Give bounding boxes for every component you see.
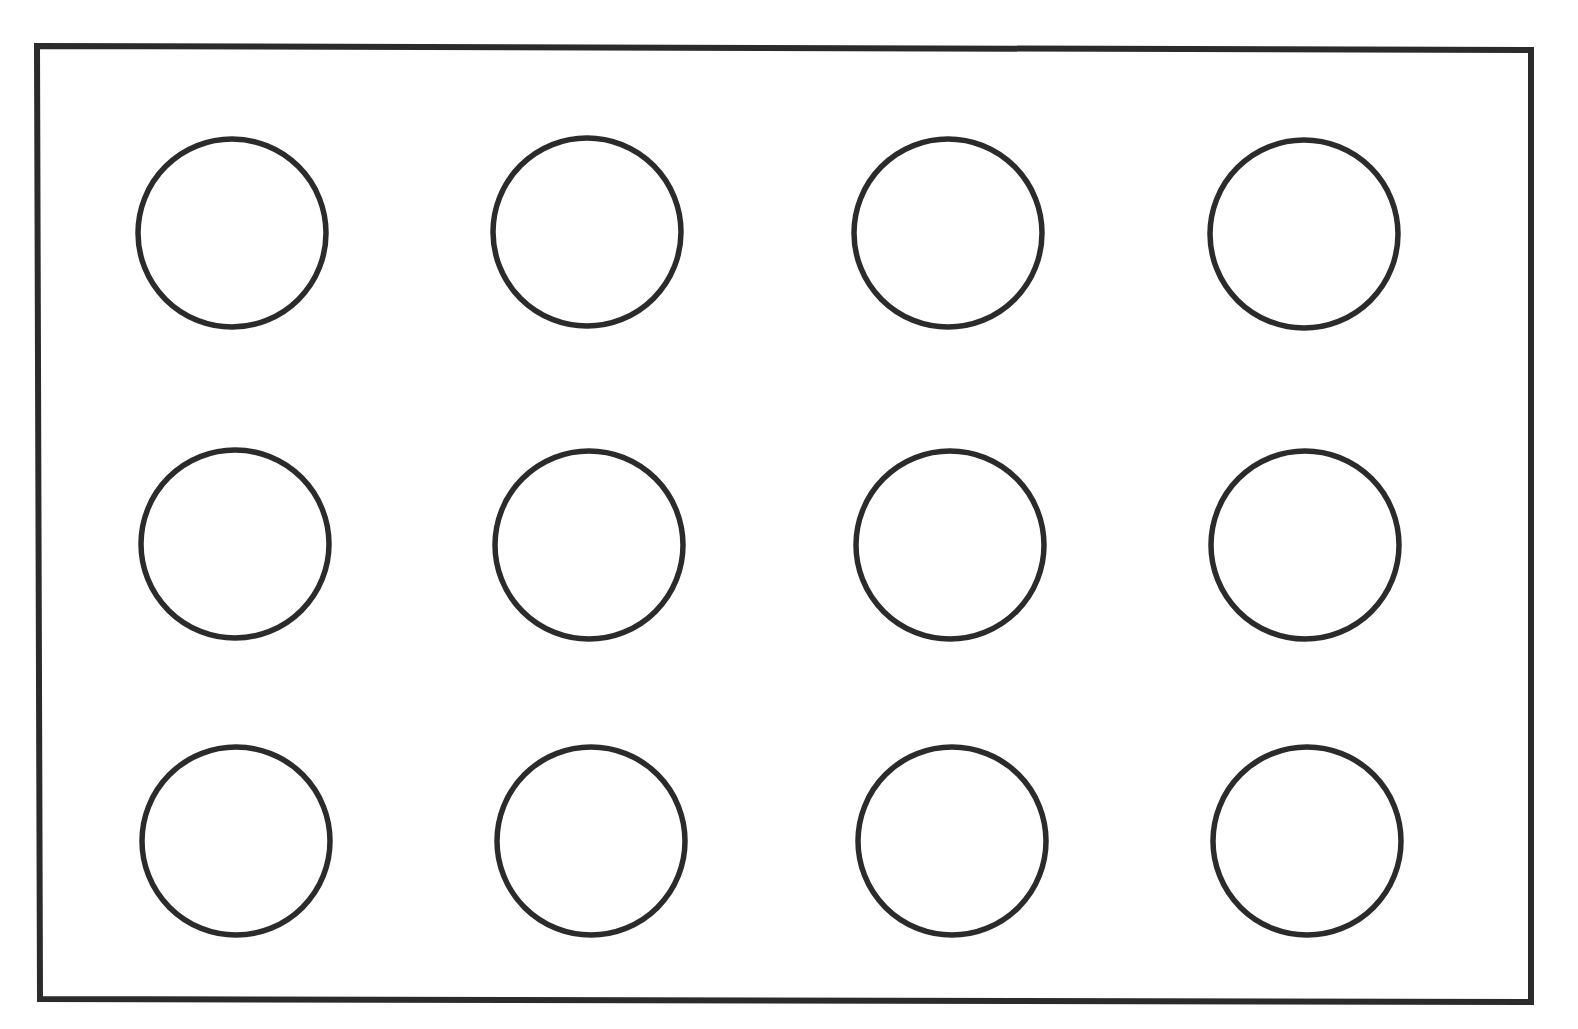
circle-r3-c3 [858,747,1046,935]
circle-grid [138,138,1401,935]
circle-r3-c1 [142,747,330,935]
outer-frame [37,46,1531,1002]
diagram-canvas [0,0,1578,1029]
circle-r2-c2 [495,451,683,639]
circle-r2-c4 [1211,451,1399,639]
circle-r3-c2 [497,747,685,935]
circle-r1-c2 [493,138,681,326]
circle-r1-c1 [138,139,326,327]
circle-r1-c3 [854,139,1042,327]
circle-r1-c4 [1210,140,1398,328]
circle-r3-c4 [1213,747,1401,935]
circle-r2-c1 [141,450,329,638]
circle-r2-c3 [856,451,1044,639]
